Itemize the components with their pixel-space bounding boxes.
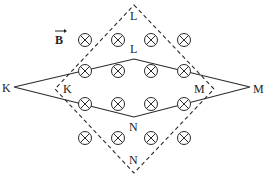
label-inner-bottom-n: N	[129, 120, 138, 134]
field-into-page-icon	[145, 65, 158, 78]
label-outer-bottom-n: N	[129, 153, 138, 167]
field-label-b: B	[55, 29, 67, 47]
field-into-page-icon	[145, 98, 158, 111]
field-into-page-icon	[79, 98, 92, 111]
field-into-page-icon	[145, 34, 158, 47]
field-into-page-icon	[112, 98, 125, 111]
solid-rhombus-loop	[14, 59, 250, 117]
field-into-page-icon	[178, 34, 191, 47]
vector-arrowhead-icon	[64, 29, 67, 33]
label-outer-left-k: K	[2, 81, 11, 95]
field-into-page-icon	[79, 34, 92, 47]
label-inner-right-m: M	[194, 82, 205, 96]
field-label: B	[55, 33, 63, 47]
field-into-page-icon	[112, 65, 125, 78]
field-into-page-icon	[178, 65, 191, 78]
dashed-square-loop	[55, 5, 214, 173]
field-into-page-icon	[112, 34, 125, 47]
field-into-page-icon	[112, 132, 125, 145]
field-into-page-icon	[79, 65, 92, 78]
field-into-page-icon	[178, 98, 191, 111]
label-inner-top-l: L	[130, 42, 137, 56]
field-into-page-icon	[145, 132, 158, 145]
label-inner-left-k: K	[63, 82, 72, 96]
field-into-page-icon	[178, 132, 191, 145]
magnetic-field-diagram: B L L K K M M N N	[0, 0, 265, 178]
label-outer-right-m: M	[253, 82, 264, 96]
field-into-page-icon	[79, 132, 92, 145]
label-outer-top-l: L	[130, 9, 137, 23]
